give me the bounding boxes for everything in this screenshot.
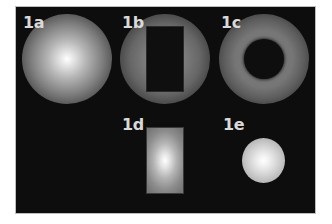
label-1c: 1c bbox=[221, 15, 241, 31]
glow-rect-1d bbox=[147, 128, 183, 193]
sphere-1e bbox=[242, 138, 285, 183]
rect-cutout-1b bbox=[147, 27, 183, 91]
label-1e: 1e bbox=[223, 117, 244, 133]
figure-panel: 1a 1b 1c 1d 1e bbox=[16, 7, 315, 213]
label-1d: 1d bbox=[122, 117, 144, 133]
label-1a: 1a bbox=[23, 15, 44, 31]
label-1b: 1b bbox=[122, 15, 144, 31]
circle-cutout-1c bbox=[244, 39, 284, 79]
